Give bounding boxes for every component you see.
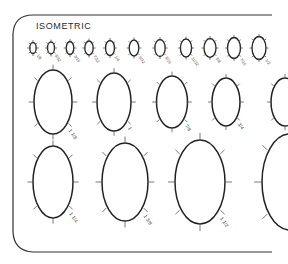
ellipse-size-label: 7/16 [239, 57, 248, 67]
tick-mark [47, 52, 49, 54]
tick-mark [73, 52, 75, 54]
tick-mark [138, 53, 140, 55]
ellipse-outline [102, 143, 148, 221]
tick-mark [105, 41, 107, 43]
template-drawing: 1/85/323/167/321/49/325/1611/323/87/161/… [0, 0, 288, 264]
ellipse-outline [157, 76, 188, 128]
tick-mark [97, 121, 100, 124]
ellipse-row-medium: 1 1/817/83/4 [29, 65, 288, 141]
ellipse-size-label: 3/4 [237, 121, 246, 130]
tick-mark [263, 145, 268, 150]
ellipse-cutout: 5/16 [152, 37, 173, 65]
tick-mark [227, 39, 229, 41]
ellipse-size-label: 9/32 [138, 55, 147, 65]
tick-mark [185, 82, 188, 85]
ellipse-outline [204, 39, 216, 58]
ellipse-size-label: 1/8 [36, 53, 44, 61]
ellipse-cutout: 3/4 [208, 74, 246, 131]
ellipse-outline [129, 40, 139, 56]
ellipse-cutout [267, 74, 288, 130]
ellipse-cutout: 5/32 [45, 40, 63, 64]
ellipse-outline [66, 42, 74, 55]
ellipse-outline [85, 41, 93, 55]
ellipse-size-label: 3/8 [215, 56, 223, 64]
tick-mark [84, 53, 86, 55]
tick-mark [212, 118, 214, 120]
tick-mark [47, 42, 49, 44]
tick-mark [92, 42, 94, 44]
tick-mark [175, 210, 179, 214]
tick-mark [237, 84, 239, 86]
ellipse-cutouts: 1/85/323/167/321/49/325/1611/323/87/161/… [27, 34, 288, 238]
tick-mark [220, 210, 224, 214]
ellipse-cutout: 3/8 [202, 36, 223, 64]
ellipse-cutout: 11/32 [178, 37, 201, 68]
tick-mark [271, 84, 273, 86]
ellipse-cutout: 1 1/2 [168, 133, 232, 231]
tick-mark [154, 41, 156, 43]
ellipse-outline [33, 146, 73, 218]
tick-mark [265, 39, 267, 41]
tick-mark [157, 119, 160, 122]
template-title: ISOMETRIC [36, 21, 91, 31]
ellipse-outline [252, 37, 266, 60]
tick-mark [129, 53, 131, 55]
tick-mark [138, 41, 140, 43]
tick-mark [73, 42, 75, 44]
tick-mark [204, 40, 206, 42]
tick-mark [69, 155, 72, 158]
ellipse-size-label: 1 1/4 [68, 211, 79, 224]
tick-mark [84, 42, 86, 44]
ellipse-outline [155, 40, 165, 57]
ellipse-size-label: 1 3/8 [142, 213, 153, 226]
tick-mark [65, 52, 67, 54]
tick-mark [204, 54, 206, 56]
isometric-ellipse-template: 1/85/323/167/321/49/325/1611/323/87/161/… [0, 0, 288, 264]
tick-mark [65, 42, 67, 44]
ellipse-cutout: 1/4 [103, 38, 121, 63]
tick-mark [33, 206, 36, 209]
ellipse-cutout: 3/16 [64, 39, 82, 64]
tick-mark [185, 119, 188, 122]
tick-mark [144, 208, 148, 212]
tick-mark [271, 118, 273, 120]
ellipse-size-label: 7/8 [184, 123, 193, 132]
tick-mark [36, 52, 38, 54]
ellipse-outline [271, 78, 288, 126]
ellipse-size-label: 3/16 [73, 54, 82, 64]
ellipse-size-label: 1/2 [264, 58, 272, 66]
tick-mark [129, 41, 131, 43]
tick-mark [102, 208, 106, 212]
ellipse-size-label: 11/32 [190, 56, 200, 67]
tick-mark [34, 77, 37, 80]
tick-mark [164, 41, 166, 43]
ellipse-cutout: 1 3/8 [96, 137, 155, 228]
ellipse-size-label: 1/4 [114, 55, 122, 63]
ellipse-outline [212, 78, 240, 126]
ellipse-size-label: 5/16 [164, 56, 173, 66]
tick-mark [33, 155, 36, 158]
tick-mark [180, 40, 182, 42]
ellipse-outline [175, 140, 225, 224]
tick-mark [263, 214, 268, 219]
tick-mark [114, 53, 116, 55]
ellipse-cutout [254, 126, 288, 238]
ellipse-cutout: 1 1/8 [29, 65, 79, 141]
tick-mark [144, 152, 148, 156]
tick-mark [164, 54, 166, 56]
ellipse-size-label: 5/32 [54, 54, 63, 64]
ellipse-outline [180, 39, 191, 57]
tick-mark [97, 80, 100, 83]
tick-mark [92, 53, 94, 55]
ellipse-cutout: 9/32 [127, 38, 147, 65]
tick-mark [175, 150, 179, 154]
tick-mark [34, 123, 37, 126]
ellipse-cutout: 1/2 [250, 34, 273, 66]
ellipse-outline [106, 41, 115, 56]
tick-mark [128, 80, 131, 83]
ellipse-cutout: 1 1/4 [27, 140, 79, 223]
ellipse-cutout: 1 [92, 68, 136, 136]
tick-mark [68, 123, 71, 126]
ellipse-cutout: 1/8 [27, 40, 43, 61]
tick-mark [265, 56, 267, 58]
